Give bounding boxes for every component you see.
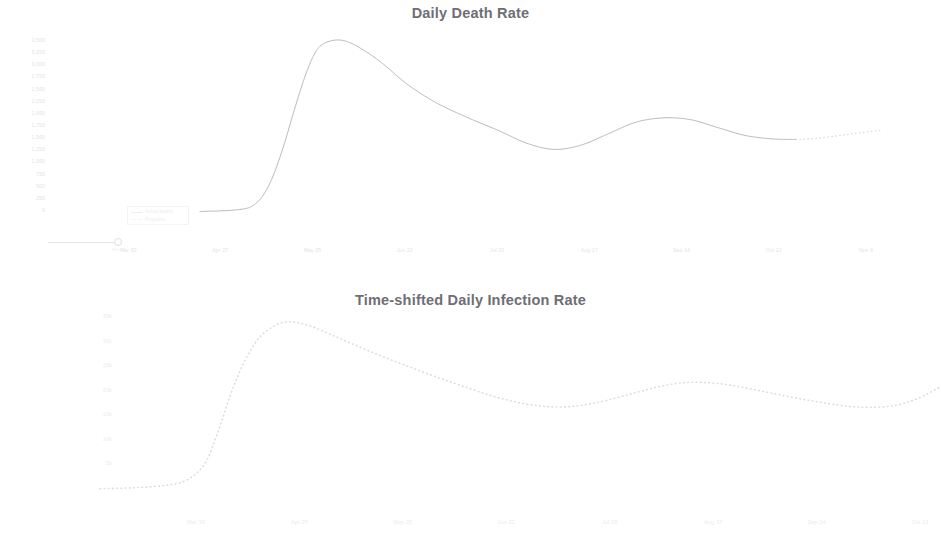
x-tick-label: Jul 20 xyxy=(598,519,622,525)
y-tick-label: 1,000 xyxy=(32,158,45,164)
y-tick-label: 1,500 xyxy=(32,134,45,140)
chart-panel-daily-death-rate: Daily Death Rate 3,5003,2503,0002,7502,5… xyxy=(0,0,941,268)
y-tick-label: 2,250 xyxy=(32,98,45,104)
series-line-time-shifted-infections xyxy=(100,322,941,489)
legend-swatch-solid-icon xyxy=(131,212,142,213)
y-tick-label: 500 xyxy=(36,183,45,189)
y-tick-label: 0 xyxy=(42,207,45,213)
chart-page: Daily Death Rate 3,5003,2503,0002,7502,5… xyxy=(0,0,941,534)
series-line-actual-deaths xyxy=(200,40,796,212)
x-tick-label: Oct 12 xyxy=(762,247,786,253)
open-circle-icon xyxy=(114,238,122,246)
legend-label: Actual deaths xyxy=(145,209,173,215)
x-tick-label: Sep 14 xyxy=(670,247,694,253)
y-tick-label: 20k xyxy=(103,387,112,393)
y-tick-label: 250 xyxy=(36,195,45,201)
y-tick-label: 25k xyxy=(103,362,112,368)
legend-item-actual-deaths: Actual deaths xyxy=(131,209,173,215)
legend-item-projection: Projection xyxy=(131,217,165,223)
x-tick-label: Jul 20 xyxy=(485,247,509,253)
x-tick-label: Jun 22 xyxy=(494,519,518,525)
legend-daily-death-rate: Actual deaths Projection xyxy=(127,206,189,225)
x-tick-label: Apr 27 xyxy=(208,247,232,253)
y-tick-label: 2,000 xyxy=(32,110,45,116)
x-tick-label: Aug 17 xyxy=(701,519,725,525)
origin-marker-line xyxy=(48,242,116,243)
line-chart-time-shifted-infection-rate xyxy=(0,310,941,526)
y-tick-label: 2,750 xyxy=(32,73,45,79)
y-tick-label: 10k xyxy=(103,436,112,442)
y-tick-label: 5k xyxy=(106,460,112,466)
y-tick-label: 3,500 xyxy=(32,37,45,43)
x-tick-label: Oct 12 xyxy=(908,519,932,525)
x-tick-label: Apr 27 xyxy=(287,519,311,525)
chart-title-daily-death-rate: Daily Death Rate xyxy=(0,5,941,21)
y-tick-label: 15k xyxy=(103,411,112,417)
origin-marker-group: Mar 30 xyxy=(48,236,138,250)
plot-area-time-shifted-infection-rate xyxy=(0,310,941,526)
y-tick-label: 35k xyxy=(103,313,112,319)
chart-title-time-shifted-infection-rate: Time-shifted Daily Infection Rate xyxy=(0,292,941,308)
legend-label: Projection xyxy=(145,217,165,223)
x-tick-label: Aug 17 xyxy=(577,247,601,253)
x-tick-label: May 25 xyxy=(301,247,325,253)
legend-swatch-dotted-icon xyxy=(131,219,142,220)
x-tick-label: Nov 9 xyxy=(854,247,878,253)
x-tick-label: Sep 14 xyxy=(805,519,829,525)
y-tick-label: 3,250 xyxy=(32,49,45,55)
x-tick-label: Jun 22 xyxy=(393,247,417,253)
origin-marker-label: Mar 30 xyxy=(112,247,126,252)
chart-panel-time-shifted-infection-rate: Time-shifted Daily Infection Rate 35k30k… xyxy=(0,268,941,534)
x-tick-label: May 25 xyxy=(391,519,415,525)
x-tick-label: Mar 30 xyxy=(184,519,208,525)
y-tick-label: 1,750 xyxy=(32,122,45,128)
series-line-projection xyxy=(796,130,881,139)
y-tick-label: 1,250 xyxy=(32,146,45,152)
y-tick-label: 2,500 xyxy=(32,86,45,92)
y-tick-label: 30k xyxy=(103,338,112,344)
y-tick-label: 3,000 xyxy=(32,61,45,67)
y-tick-label: 750 xyxy=(36,171,45,177)
